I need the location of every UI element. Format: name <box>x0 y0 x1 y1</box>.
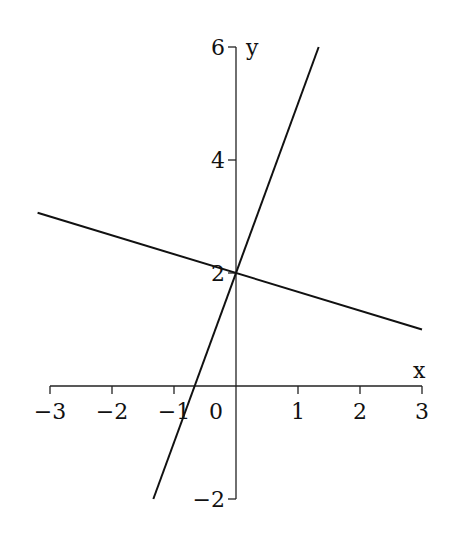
x-tick-label: 3 <box>415 399 429 424</box>
x-tick-label: 2 <box>353 399 367 424</box>
x-tick-label: −2 <box>96 399 128 424</box>
y-tick-label: 2 <box>211 261 225 286</box>
y-axis-label: y <box>245 35 259 60</box>
ticks: −3−2−10123−2246 <box>34 35 429 512</box>
y-tick-label: −2 <box>193 487 225 512</box>
x-tick-label: −3 <box>34 399 66 424</box>
y-tick-label: 6 <box>211 35 225 60</box>
x-axis-label: x <box>413 358 426 383</box>
x-tick-label: 1 <box>291 399 305 424</box>
y-tick-label: 4 <box>211 148 225 173</box>
x-tick-label: 0 <box>209 399 223 424</box>
line-chart: −3−2−10123−2246 x y <box>0 0 457 540</box>
shallow-line <box>38 213 422 330</box>
